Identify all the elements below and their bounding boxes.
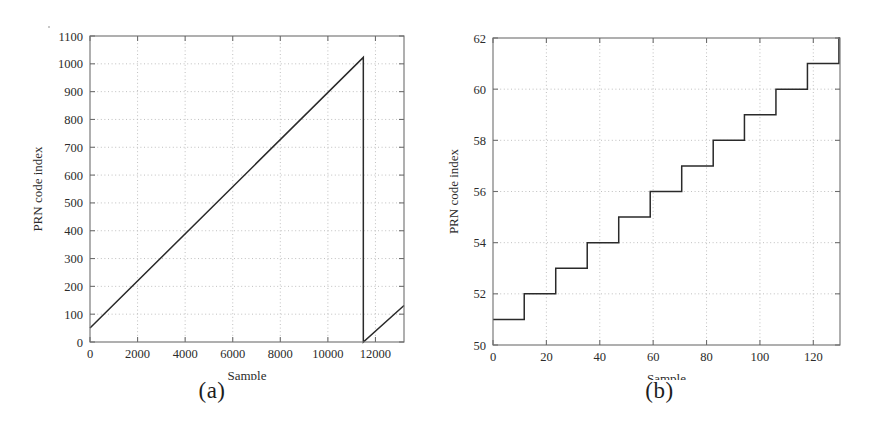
y-tick-label: 200 — [64, 280, 83, 294]
y-tick-label: 56 — [474, 185, 487, 199]
x-tick-label: 12000 — [360, 347, 391, 361]
y-tick-label: 52 — [474, 287, 487, 301]
y-tick-label: 58 — [474, 134, 487, 148]
figure-container: 0200040006000800010000120000100200300400… — [0, 0, 879, 429]
y-tick-label: 1000 — [58, 57, 83, 71]
y-tick-label: 1100 — [58, 30, 83, 44]
y-tick-label: 900 — [64, 85, 83, 99]
x-tick-label: 20 — [540, 350, 553, 364]
panel-b: 02040608010012050525456586062SamplePRN c… — [440, 0, 879, 429]
y-tick-label: 62 — [474, 32, 487, 46]
x-tick-label: 40 — [594, 350, 607, 364]
y-tick-label: 800 — [64, 113, 83, 127]
y-tick-label: 300 — [64, 252, 83, 266]
x-tick-label: 100 — [751, 350, 770, 364]
caption-b: (b) — [440, 378, 879, 404]
y-tick-label: 500 — [64, 196, 83, 210]
x-tick-label: 2000 — [125, 347, 150, 361]
series-line-0 — [493, 38, 840, 319]
y-tick-label: 0 — [77, 336, 83, 350]
x-tick-label: 6000 — [220, 347, 245, 361]
y-axis-title: PRN code index — [30, 146, 45, 232]
x-tick-label: 10000 — [312, 347, 343, 361]
y-tick-label: 700 — [64, 141, 83, 155]
axis-frame — [90, 36, 404, 342]
plot-b-staircase: 02040608010012050525456586062SamplePRN c… — [440, 0, 879, 380]
x-tick-label: 4000 — [173, 347, 198, 361]
x-tick-label: 80 — [700, 350, 713, 364]
x-tick-label: 0 — [490, 350, 496, 364]
x-tick-label: 60 — [647, 350, 660, 364]
x-tick-label: 0 — [87, 347, 93, 361]
caption-a: (a) — [0, 378, 432, 404]
y-tick-label: 50 — [474, 339, 487, 353]
y-tick-label: 54 — [474, 236, 487, 250]
y-tick-label: 100 — [64, 308, 83, 322]
x-tick-label: 120 — [804, 350, 823, 364]
series-line-0 — [90, 57, 404, 342]
plot-a-sawtooth: 0200040006000800010000120000100200300400… — [0, 0, 440, 380]
panel-a: 0200040006000800010000120000100200300400… — [0, 0, 440, 429]
y-tick-label: 400 — [64, 224, 83, 238]
y-tick-label: 600 — [64, 169, 83, 183]
y-tick-label: 60 — [474, 83, 487, 97]
x-tick-label: 8000 — [268, 347, 293, 361]
y-axis-title: PRN code index — [446, 148, 461, 234]
